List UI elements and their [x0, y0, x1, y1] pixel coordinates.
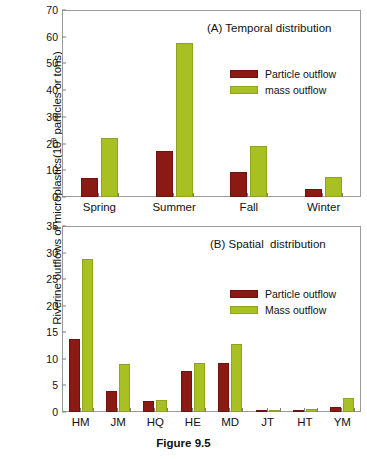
y-tick-label: 10 [46, 164, 62, 176]
bar-jt-particle [256, 410, 267, 412]
x-tick-label: HM [72, 416, 90, 428]
bar-ht-particle [293, 410, 304, 412]
y-tick-mark [62, 332, 66, 333]
x-tick-mark [192, 408, 193, 412]
bar-summer-particle [156, 151, 173, 197]
legend-b: Particle outflowMass outflow [230, 288, 336, 320]
x-tick-mark [93, 408, 94, 412]
x-tick-mark [173, 193, 174, 197]
y-tick-label: 25 [46, 273, 62, 285]
x-tick-mark [80, 408, 81, 412]
bar-jm-mass [119, 364, 130, 412]
legend-swatch-particle [230, 70, 258, 78]
bar-spring-particle [81, 178, 98, 198]
bar-spring-mass [101, 138, 118, 197]
bar-hq-particle [143, 401, 154, 412]
y-tick-label: 50 [46, 57, 62, 69]
y-tick-label: 70 [46, 4, 62, 16]
x-tick-mark [229, 408, 230, 412]
bar-ym-mass [343, 398, 354, 412]
legend-a: Particle outflowmass outflow [230, 68, 336, 100]
y-tick-label: 30 [46, 247, 62, 259]
x-tick-mark [130, 408, 131, 412]
legend-item-particle: Particle outflow [230, 288, 336, 300]
x-tick-mark [98, 193, 99, 197]
y-tick-mark [62, 358, 66, 359]
bar-hq-mass [156, 400, 167, 412]
x-tick-label: HQ [147, 416, 164, 428]
y-tick-mark [62, 385, 66, 386]
legend-item-mass: mass outflow [230, 84, 336, 96]
legend-swatch-particle [230, 290, 258, 298]
y-tick-label: 40 [46, 84, 62, 96]
x-tick-label: HE [185, 416, 201, 428]
x-tick-mark [341, 408, 342, 412]
x-tick-mark [342, 193, 343, 197]
y-tick-mark [62, 63, 66, 64]
x-tick-mark [247, 193, 248, 197]
y-tick-mark [62, 116, 66, 117]
x-tick-label: Summer [152, 201, 195, 213]
y-tick-mark [62, 197, 66, 198]
y-tick-label: 0 [52, 406, 62, 418]
y-tick-mark [62, 226, 66, 227]
y-tick-mark [62, 305, 66, 306]
panel-a-temporal-distribution: (A) Temporal distribution 01020304050607… [62, 10, 361, 197]
bar-jm-particle [106, 391, 117, 412]
y-tick-label: 5 [52, 379, 62, 391]
y-tick-label: 15 [46, 326, 62, 338]
legend-item-mass: Mass outflow [230, 304, 336, 316]
y-tick-label: 0 [52, 191, 62, 203]
x-tick-label: HT [297, 416, 312, 428]
x-tick-label: MD [221, 416, 239, 428]
y-tick-label: 20 [46, 138, 62, 150]
x-tick-mark [354, 408, 355, 412]
x-tick-mark [267, 408, 268, 412]
legend-label: Particle outflow [265, 288, 336, 300]
bar-he-mass [194, 363, 205, 412]
x-tick-label: Spring [83, 201, 116, 213]
y-tick-label: 60 [46, 31, 62, 43]
x-tick-mark [304, 408, 305, 412]
x-tick-label: YM [334, 416, 351, 428]
x-tick-mark [193, 193, 194, 197]
figure-container: Riverine outflows of microplastics(109 p… [0, 0, 367, 459]
y-tick-mark [62, 170, 66, 171]
panel-a-title: (A) Temporal distribution [207, 22, 331, 34]
legend-label: Mass outflow [265, 304, 326, 316]
x-tick-mark [205, 408, 206, 412]
x-tick-mark [154, 408, 155, 412]
y-tick-mark [62, 279, 66, 280]
bar-winter-particle [305, 189, 322, 197]
x-tick-mark [267, 193, 268, 197]
x-tick-mark [322, 193, 323, 197]
y-tick-mark [62, 143, 66, 144]
y-tick-mark [62, 252, 66, 253]
y-tick-label: 30 [46, 111, 62, 123]
bar-ht-mass [306, 409, 317, 412]
y-tick-mark [62, 36, 66, 37]
legend-item-particle: Particle outflow [230, 68, 336, 80]
y-tick-label: 35 [46, 220, 62, 232]
bar-jt-mass [269, 410, 280, 412]
x-tick-label: JT [261, 416, 274, 428]
y-tick-mark [62, 412, 66, 413]
bar-fall-particle [230, 172, 247, 197]
bar-winter-mass [325, 177, 342, 197]
y-tick-mark [62, 90, 66, 91]
bar-ym-particle [330, 407, 341, 412]
x-tick-mark [117, 408, 118, 412]
x-tick-label: Winter [307, 201, 340, 213]
x-tick-mark [242, 408, 243, 412]
panel-b-spatial-distribution: (B) Spatial distribution 05101520253035 … [62, 226, 361, 412]
legend-swatch-mass [230, 306, 258, 314]
bar-summer-mass [176, 43, 193, 197]
bar-he-particle [181, 371, 192, 412]
bar-hm-mass [82, 259, 93, 412]
x-tick-mark [317, 408, 318, 412]
bar-md-particle [218, 363, 229, 412]
bar-md-mass [231, 344, 242, 412]
y-tick-mark [62, 10, 66, 11]
bar-hm-particle [69, 339, 80, 412]
legend-swatch-mass [230, 86, 258, 94]
